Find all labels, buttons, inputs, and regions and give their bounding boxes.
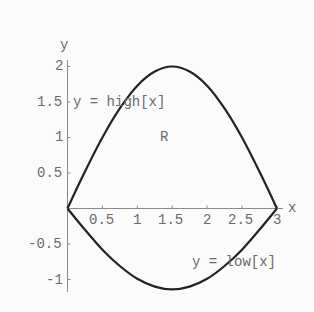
y-tick-neg1: -1	[46, 273, 63, 287]
x-axis-label: x	[288, 201, 296, 215]
x-tick-3: 3	[273, 213, 281, 227]
y-axis-label: y	[60, 38, 68, 52]
y-tick-2: 2	[55, 59, 63, 73]
chart: y x 2 1.5 1 0.5 -0.5 -1 0.5 1 1.5 2 2.5 …	[0, 0, 314, 312]
x-tick-2: 2	[203, 213, 211, 227]
y-tick-1: 1	[55, 130, 63, 144]
y-tick-1.5: 1.5	[37, 95, 62, 109]
x-tick-2.5: 2.5	[228, 213, 253, 227]
y-tick-0.5: 0.5	[37, 166, 62, 180]
x-tick-1: 1	[133, 213, 141, 227]
high-curve	[68, 67, 277, 209]
low-curve-label: y = low[x]	[192, 255, 276, 269]
y-tick-neg0.5: -0.5	[28, 237, 62, 251]
high-curve-label: y = high[x]	[73, 95, 165, 109]
x-tick-0.5: 0.5	[89, 213, 114, 227]
region-label: R	[160, 130, 168, 144]
x-tick-1.5: 1.5	[158, 213, 183, 227]
